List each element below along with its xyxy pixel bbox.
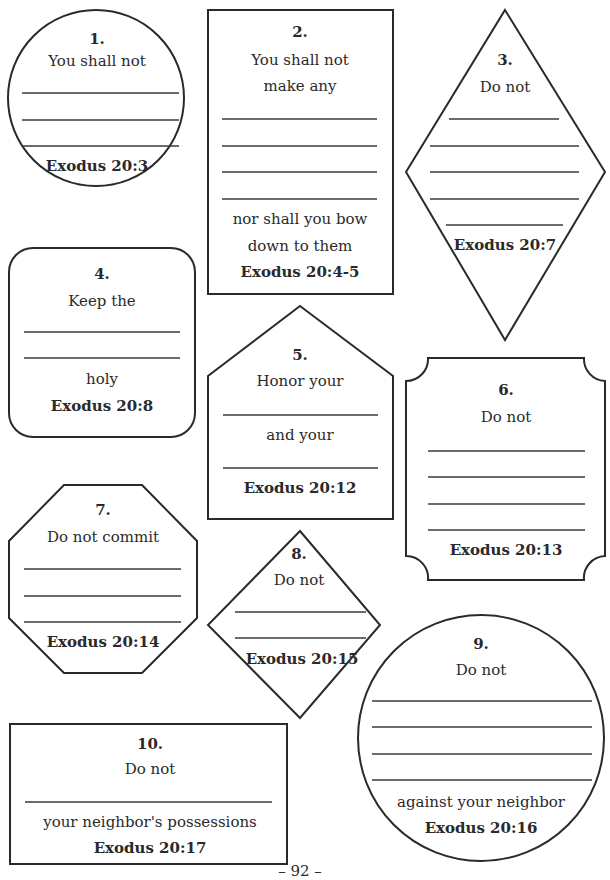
card-2-prompt-line-2: make any [264, 77, 337, 95]
card-7-reference: Exodus 20:14 [47, 633, 160, 651]
card-2-number: 2. [292, 23, 308, 41]
card-5-prompt: Honor your [256, 372, 343, 390]
card-10-prompt: Do not [125, 760, 176, 778]
card-10-number: 10. [137, 735, 163, 753]
card-8-number: 8. [291, 545, 307, 563]
card-9-reference: Exodus 20:16 [425, 819, 538, 837]
card-7-number: 7. [95, 501, 111, 519]
card-4-reference: Exodus 20:8 [51, 397, 153, 415]
card-3-reference: Exodus 20:7 [454, 236, 556, 254]
card-7-prompt: Do not commit [47, 528, 159, 546]
card-6-prompt: Do not [481, 408, 532, 426]
card-4-after: holy [86, 370, 118, 388]
card-2-after-line-2: down to them [248, 237, 353, 255]
card-4-prompt: Keep the [68, 292, 136, 310]
page-number: – 92 – [278, 862, 322, 880]
card-6-reference: Exodus 20:13 [450, 541, 563, 559]
card-9-number: 9. [473, 635, 489, 653]
card-2-prompt-line-1: You shall not [251, 51, 348, 69]
card-1-prompt: You shall not [48, 52, 145, 70]
card-1-reference: Exodus 20:3 [46, 157, 148, 175]
card-4-number: 4. [94, 265, 110, 283]
card-1-number: 1. [89, 30, 105, 48]
card-5-reference: Exodus 20:12 [244, 479, 357, 497]
card-10-after: your neighbor's possessions [43, 813, 257, 831]
card-5-number: 5. [292, 346, 308, 364]
card-2-after-line-1: nor shall you bow [233, 210, 368, 228]
card-2-reference: Exodus 20:4-5 [241, 263, 360, 281]
card-8-prompt: Do not [274, 571, 325, 589]
card-8-reference: Exodus 20:15 [246, 650, 359, 668]
card-9-after: against your neighbor [397, 793, 565, 811]
card-10-reference: Exodus 20:17 [94, 839, 207, 857]
card-6-number: 6. [498, 381, 514, 399]
card-9-prompt: Do not [456, 661, 507, 679]
card-5-middle: and your [266, 426, 333, 444]
card-3-number: 3. [497, 51, 513, 69]
card-3-prompt: Do not [480, 78, 531, 96]
